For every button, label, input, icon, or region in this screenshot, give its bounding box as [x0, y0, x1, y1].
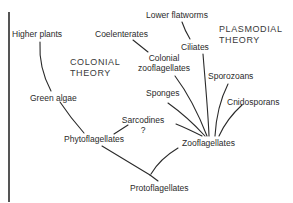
- node-zooflagellates: Zooflagellates: [182, 138, 235, 148]
- node-protoflagellates: Protoflagellates: [130, 183, 189, 193]
- node-coelenterates: Coelenterates: [95, 29, 148, 39]
- node-lower-flatworms: Lower flatworms: [146, 10, 208, 20]
- branch-phyto-green-algae: [60, 102, 84, 133]
- plasmodial-theory-label: PLASMODIAL THEORY: [219, 24, 283, 46]
- node-sponges: Sponges: [146, 88, 180, 98]
- node-green-algae: Green algae: [30, 93, 77, 103]
- plasmodial-theory-line2: THEORY: [219, 35, 283, 46]
- branch-phyto-proto: [102, 146, 150, 175]
- node-sporozoans: Sporozoans: [208, 71, 253, 81]
- phylogeny-diagram: COLONIAL THEORY PLASMODIAL THEORY Higher…: [0, 0, 293, 203]
- branch-ciliates-zoo: [203, 54, 209, 136]
- node-sarcodines: Sarcodines ?: [118, 115, 168, 135]
- colonial-zooflagellates-line2: zooflagellates: [134, 63, 194, 73]
- branch-coelenterates-colonial: [133, 40, 148, 52]
- sarcodines-label: Sarcodines: [118, 115, 168, 125]
- sarcodines-question-mark: ?: [118, 125, 168, 135]
- branch-junction-proto: [150, 175, 158, 181]
- node-phytoflagellates: Phytoflagellates: [64, 134, 124, 144]
- branch-green-algae-higher-plants: [40, 42, 51, 91]
- node-higher-plants: Higher plants: [12, 29, 62, 39]
- colonial-zooflagellates-line1: Colonial: [134, 53, 194, 63]
- branch-colonial-zoo: [175, 76, 207, 136]
- node-cnidosporans: Cnidosporans: [227, 97, 279, 107]
- colonial-theory-line2: THEORY: [70, 68, 120, 79]
- colonial-theory-label: COLONIAL THEORY: [70, 57, 120, 79]
- plasmodial-theory-line1: PLASMODIAL: [219, 24, 283, 35]
- branch-cnidosporans-zoo: [219, 105, 242, 136]
- node-colonial-zooflagellates: Colonial zooflagellates: [134, 53, 194, 73]
- branch-sarcodines-zoo: [176, 124, 202, 136]
- branch-zoo-proto: [151, 148, 178, 174]
- branch-flatworms-ciliates: [182, 22, 190, 39]
- colonial-theory-line1: COLONIAL: [70, 57, 120, 68]
- branch-sponges-zoo: [168, 103, 205, 136]
- node-ciliates: Ciliates: [181, 42, 209, 52]
- branch-sporozoans-zoo: [215, 84, 228, 136]
